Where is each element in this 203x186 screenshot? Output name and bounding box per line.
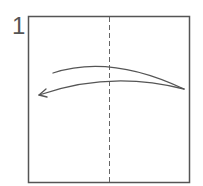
fold-arrow-icon (39, 66, 184, 97)
origami-diagram (0, 0, 203, 186)
